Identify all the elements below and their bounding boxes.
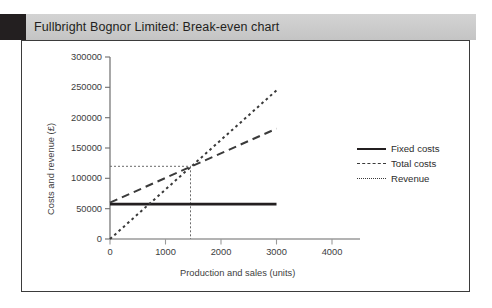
dashed-line-swatch-icon (357, 159, 386, 169)
dotted-line-swatch-icon (357, 174, 386, 184)
y-tick-label: 0 (46, 234, 102, 244)
legend-label: Total costs (391, 158, 436, 169)
legend-item-fixed-costs: Fixed costs (357, 141, 440, 156)
legend-item-revenue: Revenue (357, 171, 440, 186)
x-tick-marks (110, 239, 332, 245)
solid-line-swatch-icon (357, 144, 386, 154)
y-axis-title: Costs and revenue (£) (46, 123, 56, 215)
y-tick-label: 300000 (46, 52, 102, 62)
y-tick-label: 200000 (46, 113, 102, 123)
x-tick-label: 3000 (255, 247, 299, 257)
x-tick-label: 1000 (144, 247, 188, 257)
y-tick-marks (105, 57, 110, 239)
legend-label: Fixed costs (391, 143, 440, 154)
chart-legend: Fixed costs Total costs Revenue (357, 141, 440, 186)
x-tick-label: 0 (88, 247, 132, 257)
series-revenue (110, 90, 277, 239)
x-tick-label: 2000 (199, 247, 243, 257)
legend-item-total-costs: Total costs (357, 156, 440, 171)
legend-label: Revenue (391, 173, 429, 184)
y-tick-label: 250000 (46, 82, 102, 92)
x-axis-title: Production and sales (units) (180, 268, 295, 278)
x-tick-label: 4000 (310, 247, 354, 257)
